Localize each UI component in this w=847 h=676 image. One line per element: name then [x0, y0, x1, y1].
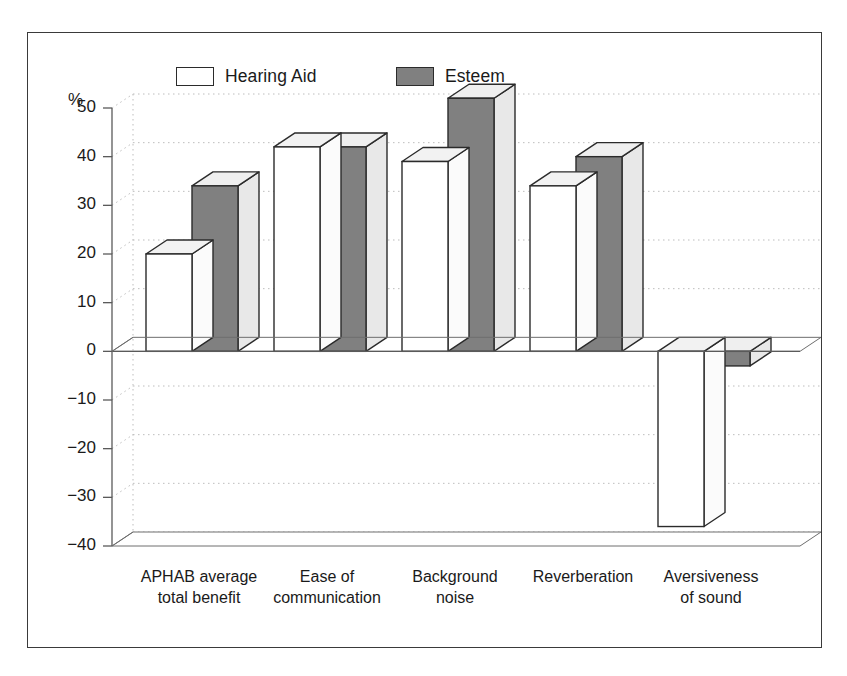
x-axis-category-2: Background noise [390, 566, 520, 608]
bar-group [658, 337, 771, 526]
x-axis-category-3: Reverberation [518, 566, 648, 587]
x-axis-category-1: Ease of communication [262, 566, 392, 608]
y-axis-tick-20: 20 [34, 243, 96, 263]
bar-hearing-aid [146, 240, 213, 351]
y-axis-tick-neg40: −40 [34, 535, 96, 555]
x-axis-category-0: APHAB average total benefit [134, 566, 264, 608]
y-axis-tick-neg30: −30 [34, 486, 96, 506]
y-axis-tick-50: 50 [34, 97, 96, 117]
y-axis-tick-0: 0 [34, 340, 96, 360]
x-axis-category-4: Aversiveness of sound [646, 566, 776, 608]
y-axis-tick-neg20: −20 [34, 438, 96, 458]
chart-figure: Hearing Aid Esteem % 50403020100−10−20−3… [0, 0, 847, 676]
bar-hearing-aid [530, 172, 597, 351]
y-axis-tick-30: 30 [34, 194, 96, 214]
bar-hearing-aid [402, 148, 469, 352]
y-axis-tick-40: 40 [34, 146, 96, 166]
y-axis-tick-neg10: −10 [34, 389, 96, 409]
bar-group [274, 133, 387, 351]
bar-hearing-aid [274, 133, 341, 351]
bar-group [530, 143, 643, 352]
bar-group [146, 172, 259, 351]
bar-hearing-aid [658, 337, 725, 526]
y-axis-tick-10: 10 [34, 292, 96, 312]
bar-group [402, 84, 515, 351]
